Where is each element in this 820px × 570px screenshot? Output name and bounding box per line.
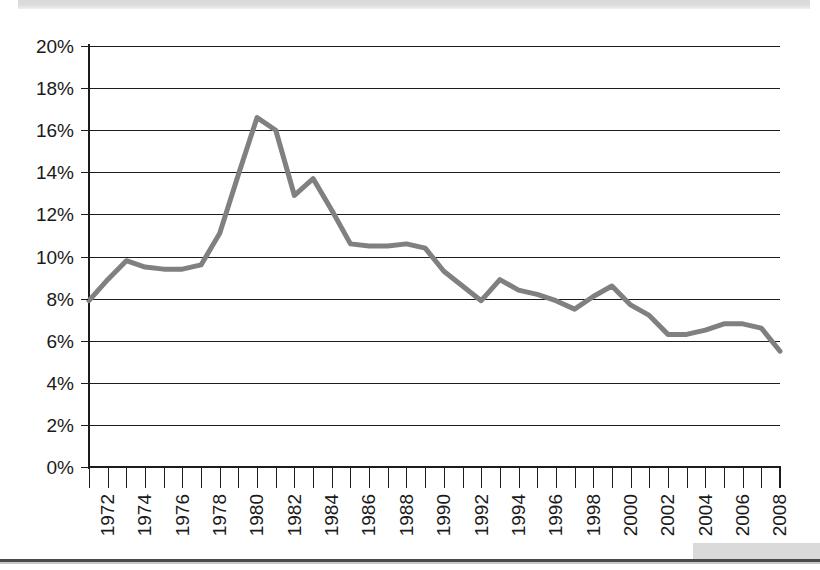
y-tick-label: 6% [8, 332, 74, 351]
x-tick-mark [313, 468, 314, 488]
x-tick-mark [519, 468, 520, 488]
x-tick-mark [705, 468, 706, 488]
x-tick-label: 1986 [359, 494, 378, 536]
bottom-rule-shadow [0, 562, 820, 564]
x-tick-mark [332, 468, 333, 488]
y-tick-label: 14% [8, 163, 74, 182]
x-tick-mark [425, 468, 426, 488]
x-tick-mark [126, 468, 127, 488]
y-tick-mark [81, 467, 88, 468]
y-tick-label: 12% [8, 205, 74, 224]
x-tick-mark [575, 468, 576, 488]
y-tick-label: 0% [8, 458, 74, 477]
x-tick-label: 1974 [135, 494, 154, 536]
x-tick-label: 1994 [509, 494, 528, 536]
x-tick-mark [294, 468, 295, 488]
y-tick-mark [81, 383, 88, 384]
x-tick-label: 1990 [434, 494, 453, 536]
x-tick-mark [556, 468, 557, 488]
y-tick-label: 2% [8, 416, 74, 435]
x-tick-label: 1978 [210, 494, 229, 536]
x-tick-mark [612, 468, 613, 488]
x-tick-mark [108, 468, 109, 488]
x-tick-mark [500, 468, 501, 488]
y-tick-label: 4% [8, 374, 74, 393]
x-tick-label: 2002 [658, 494, 677, 536]
x-tick-mark [463, 468, 464, 488]
x-tick-mark [537, 468, 538, 488]
y-tick-label: 16% [8, 121, 74, 140]
x-tick-mark [444, 468, 445, 488]
x-tick-mark [164, 468, 165, 488]
x-tick-mark [406, 468, 407, 488]
y-tick-mark [81, 214, 88, 215]
y-tick-label: 18% [8, 79, 74, 98]
x-tick-mark [201, 468, 202, 488]
y-tick-mark [81, 46, 88, 47]
bottom-right-gray-box [693, 543, 820, 559]
x-tick-mark [276, 468, 277, 488]
x-tick-label: 1982 [285, 494, 304, 536]
y-tick-mark [81, 88, 88, 89]
x-tick-mark [350, 468, 351, 488]
x-tick-mark [220, 468, 221, 488]
y-tick-label: 20% [8, 37, 74, 56]
x-tick-mark [761, 468, 762, 488]
x-tick-mark [89, 468, 90, 488]
x-tick-mark [687, 468, 688, 488]
x-tick-mark [743, 468, 744, 488]
x-tick-mark [593, 468, 594, 488]
x-tick-mark [724, 468, 725, 488]
x-tick-label: 2008 [770, 494, 789, 536]
y-tick-mark [81, 425, 88, 426]
x-tick-mark [388, 468, 389, 488]
x-tick-mark [481, 468, 482, 488]
x-tick-label: 1980 [247, 494, 266, 536]
x-tick-mark [238, 468, 239, 488]
x-tick-label: 1998 [584, 494, 603, 536]
x-tick-mark [780, 468, 781, 488]
x-tick-label: 1988 [397, 494, 416, 536]
y-tick-mark [81, 172, 88, 173]
y-tick-mark [81, 299, 88, 300]
y-tick-mark [81, 341, 88, 342]
x-tick-mark [369, 468, 370, 488]
x-tick-mark [649, 468, 650, 488]
y-tick-mark [81, 130, 88, 131]
top-gray-band [18, 0, 810, 9]
data-series-line [0, 22, 820, 542]
x-tick-mark [668, 468, 669, 488]
x-tick-label: 2000 [621, 494, 640, 536]
x-tick-label: 1976 [173, 494, 192, 536]
x-tick-label: 2006 [733, 494, 752, 536]
x-tick-mark [145, 468, 146, 488]
y-tick-label: 10% [8, 248, 74, 267]
x-tick-label: 1996 [546, 494, 565, 536]
x-tick-label: 1992 [472, 494, 491, 536]
x-tick-label: 2004 [696, 494, 715, 536]
x-tick-mark [257, 468, 258, 488]
line-chart: 20%18%16%14%12%10%8%6%4%2%0%197219741976… [0, 22, 820, 542]
x-tick-mark [182, 468, 183, 488]
x-tick-label: 1972 [98, 494, 117, 536]
y-tick-label: 8% [8, 290, 74, 309]
x-tick-mark [631, 468, 632, 488]
y-tick-mark [81, 257, 88, 258]
x-tick-label: 1984 [322, 494, 341, 536]
